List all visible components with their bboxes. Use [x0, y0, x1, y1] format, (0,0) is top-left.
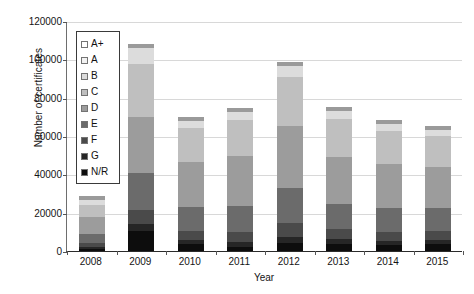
- bar-segment-2012-B: [277, 66, 303, 77]
- bar-segment-2012-D: [277, 126, 303, 188]
- legend-swatch-icon-D: [81, 105, 88, 112]
- chart-legend[interactable]: A+ABCDEFGN/R: [76, 31, 120, 184]
- y-axis-tickmark: [63, 22, 67, 23]
- bar-segment-2012-E: [277, 188, 303, 223]
- x-axis-tickmark: [463, 251, 464, 255]
- bar-segment-2011-E: [227, 206, 253, 232]
- bar-segment-2015-D: [425, 167, 451, 208]
- legend-label: A: [91, 52, 98, 68]
- bar-segment-2013-NR: [326, 244, 352, 251]
- bar-2012[interactable]: [277, 62, 303, 251]
- legend-item-D[interactable]: D: [81, 100, 116, 116]
- legend-item-G[interactable]: G: [81, 148, 116, 164]
- legend-item-A[interactable]: A: [81, 52, 116, 68]
- bar-segment-2013-D: [326, 157, 352, 204]
- bar-segment-2011-C: [227, 120, 253, 156]
- bar-segment-2010-B: [178, 121, 204, 128]
- bar-segment-2013-F: [326, 229, 352, 239]
- gridline: [67, 214, 462, 215]
- legend-item-A+[interactable]: A+: [81, 36, 116, 52]
- x-axis-tickmark: [414, 251, 415, 255]
- bar-2008[interactable]: [79, 196, 105, 251]
- y-axis-tick-label: 0: [12, 247, 62, 257]
- legend-label: A+: [91, 36, 104, 52]
- gridline: [67, 22, 462, 23]
- bar-segment-2009-D: [128, 117, 154, 173]
- bar-segment-2009-B: [128, 48, 154, 64]
- bar-segment-2015-F: [425, 231, 451, 240]
- legend-swatch-icon-B: [81, 73, 88, 80]
- bar-2011[interactable]: [227, 108, 253, 251]
- bar-2013[interactable]: [326, 107, 352, 251]
- bar-segment-2014-D: [376, 164, 402, 208]
- bar-segment-2011-B: [227, 112, 253, 120]
- legend-label: B: [91, 68, 98, 84]
- legend-swatch-icon-A: [81, 57, 88, 64]
- y-axis-tickmark: [63, 137, 67, 138]
- gridline: [67, 137, 462, 138]
- bar-segment-2008-C: [79, 205, 105, 217]
- x-axis-tick-label-2015: 2015: [411, 256, 463, 267]
- legend-item-NR[interactable]: N/R: [81, 164, 116, 180]
- bar-segment-2008-NR: [79, 249, 105, 251]
- legend-swatch-icon-F: [81, 137, 88, 144]
- x-axis-tick-label-2009: 2009: [114, 256, 166, 267]
- legend-swatch-icon-C: [81, 89, 88, 96]
- legend-label: G: [91, 148, 99, 164]
- bar-segment-2010-E: [178, 207, 204, 231]
- bar-segment-2012-C: [277, 77, 303, 126]
- bar-segment-2015-NR: [425, 244, 451, 251]
- bar-segment-2009-F: [128, 210, 154, 224]
- bar-2009[interactable]: [128, 44, 154, 251]
- bar-segment-2011-D: [227, 156, 253, 206]
- x-axis-title: Year: [66, 272, 462, 283]
- bar-segment-2010-D: [178, 162, 204, 207]
- x-axis-tickmark: [265, 251, 266, 255]
- legend-swatch-icon-E: [81, 121, 88, 128]
- x-axis-tickmark: [117, 251, 118, 255]
- y-axis-tick-label: 20000: [12, 209, 62, 219]
- legend-label: D: [91, 100, 98, 116]
- bar-segment-2009-C: [128, 64, 154, 117]
- legend-item-F[interactable]: F: [81, 132, 116, 148]
- x-axis-tick-label-2010: 2010: [164, 256, 216, 267]
- bar-segment-2010-NR: [178, 244, 204, 251]
- bar-segment-2008-E: [79, 234, 105, 243]
- bar-segment-2009-E: [128, 173, 154, 210]
- legend-label: E: [91, 116, 98, 132]
- x-axis-tick-label-2014: 2014: [362, 256, 414, 267]
- bar-segment-2012-F: [277, 223, 303, 236]
- y-axis-tickmark: [63, 60, 67, 61]
- bar-segment-2010-C: [178, 128, 204, 162]
- plot-area: [66, 22, 462, 252]
- legend-item-B[interactable]: B: [81, 68, 116, 84]
- gridline: [67, 175, 462, 176]
- y-axis-tick-label: 60000: [12, 132, 62, 142]
- legend-label: C: [91, 84, 98, 100]
- stacked-bar-chart: Number of certificates 02000040000600008…: [0, 0, 474, 294]
- bar-segment-2009-NR: [128, 231, 154, 251]
- bar-segment-2013-E: [326, 204, 352, 230]
- x-axis-tickmark: [67, 251, 68, 255]
- bar-segment-2010-F: [178, 231, 204, 240]
- x-axis-tick-label-2011: 2011: [213, 256, 265, 267]
- legend-item-E[interactable]: E: [81, 116, 116, 132]
- y-axis-tickmark: [63, 99, 67, 100]
- bar-segment-2011-NR: [227, 247, 253, 251]
- bar-segment-2015-E: [425, 208, 451, 231]
- bar-segment-2012-NR: [277, 243, 303, 251]
- legend-swatch-icon-G: [81, 153, 88, 160]
- x-axis-tickmark: [216, 251, 217, 255]
- bar-segment-2013-C: [326, 119, 352, 156]
- legend-item-C[interactable]: C: [81, 84, 116, 100]
- bar-segment-2014-F: [376, 232, 402, 241]
- bar-2010[interactable]: [178, 117, 204, 251]
- x-axis-tick-label-2013: 2013: [312, 256, 364, 267]
- y-axis-tick-label: 40000: [12, 170, 62, 180]
- bar-2015[interactable]: [425, 126, 451, 251]
- x-axis-tickmark: [364, 251, 365, 255]
- legend-swatch-icon-NR: [81, 169, 88, 176]
- x-axis-tickmark: [166, 251, 167, 255]
- bar-2014[interactable]: [376, 120, 402, 251]
- legend-label: N/R: [91, 164, 108, 180]
